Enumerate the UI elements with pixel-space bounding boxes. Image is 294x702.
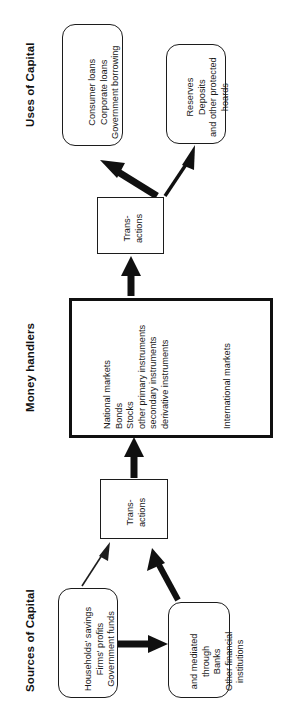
node-uses-loans-line-2: Corporate loans (99, 46, 111, 139)
arrow-intermediaries-to-transactions (147, 548, 178, 600)
node-transactions-top-line-1: Trans- (122, 214, 134, 243)
node-markets-line-1: National markets (102, 325, 114, 429)
node-sources-intermediaries-line-3: Banks (212, 632, 224, 691)
node-sources-savings[interactable]: Households' savings Firms' profits Gover… (58, 588, 118, 698)
node-sources-intermediaries[interactable]: and mediated through Banks Other financi… (168, 602, 230, 698)
node-uses-loans-line-3: Government borrowing (110, 46, 122, 139)
section-header-sources-of-capital: Sources of Capital (24, 589, 36, 692)
node-markets-international-line: International markets (222, 343, 234, 429)
node-uses-reserves-line-4: hoards (220, 57, 232, 137)
arrow-savings-to-intermediaries (118, 635, 168, 653)
node-transactions-bottom-line-1: Trans- (125, 498, 137, 527)
section-header-money-handlers: Money handlers (24, 323, 36, 412)
node-sources-savings-line-1: Households' savings (83, 607, 95, 691)
section-header-uses-of-capital: Uses of Capital (24, 42, 36, 127)
node-uses-reserves[interactable]: Reserves Deposits and other protected ho… (166, 44, 226, 144)
diagram-canvas: Uses of Capital Money handlers Sources o… (0, 0, 294, 702)
arrow-transactions-to-loans (100, 160, 157, 196)
node-sources-intermediaries-line-2: through (201, 632, 213, 691)
node-uses-loans[interactable]: Consumer loans Corporate loans Governmen… (62, 24, 123, 146)
node-markets-line-3: Stocks (125, 325, 137, 429)
node-markets-secondary-list: International markets (222, 343, 234, 429)
node-transactions-top-line-2: actions (134, 214, 146, 243)
node-markets-line-2: Bonds (114, 325, 126, 429)
node-markets[interactable]: National markets Bonds Stocks other prim… (69, 298, 273, 438)
node-markets-line-6: derivative instruments (160, 325, 172, 429)
node-uses-reserves-line-1: Reserves (185, 57, 197, 137)
arrow-transactions-to-reserves (165, 145, 195, 196)
node-uses-reserves-line-3: and other protected (208, 57, 220, 137)
node-uses-loans-line-1: Consumer loans (87, 46, 99, 139)
node-sources-intermediaries-line-1: and mediated (189, 632, 201, 691)
node-markets-primary-list: National markets Bonds Stocks other prim… (102, 325, 172, 429)
node-transactions-bottom-line-2: actions (137, 498, 149, 527)
arrow-transactions-to-markets (124, 437, 144, 478)
node-sources-savings-line-3: Government funds (106, 607, 118, 691)
node-sources-savings-line-2: Firms' profits (95, 607, 107, 691)
node-transactions-bottom[interactable]: Trans- actions (100, 479, 168, 539)
node-markets-line-4: other primary instruments (137, 325, 149, 429)
node-sources-intermediaries-line-5: institutions (235, 632, 247, 691)
node-uses-reserves-line-2: Deposits (197, 57, 209, 137)
node-transactions-top[interactable]: Trans- actions (97, 197, 164, 254)
arrow-savings-to-transactions (82, 542, 110, 586)
node-markets-line-5: secondary instruments (148, 325, 160, 429)
arrow-markets-to-transactions (121, 256, 141, 296)
node-sources-intermediaries-line-4: Other financial (224, 632, 236, 691)
